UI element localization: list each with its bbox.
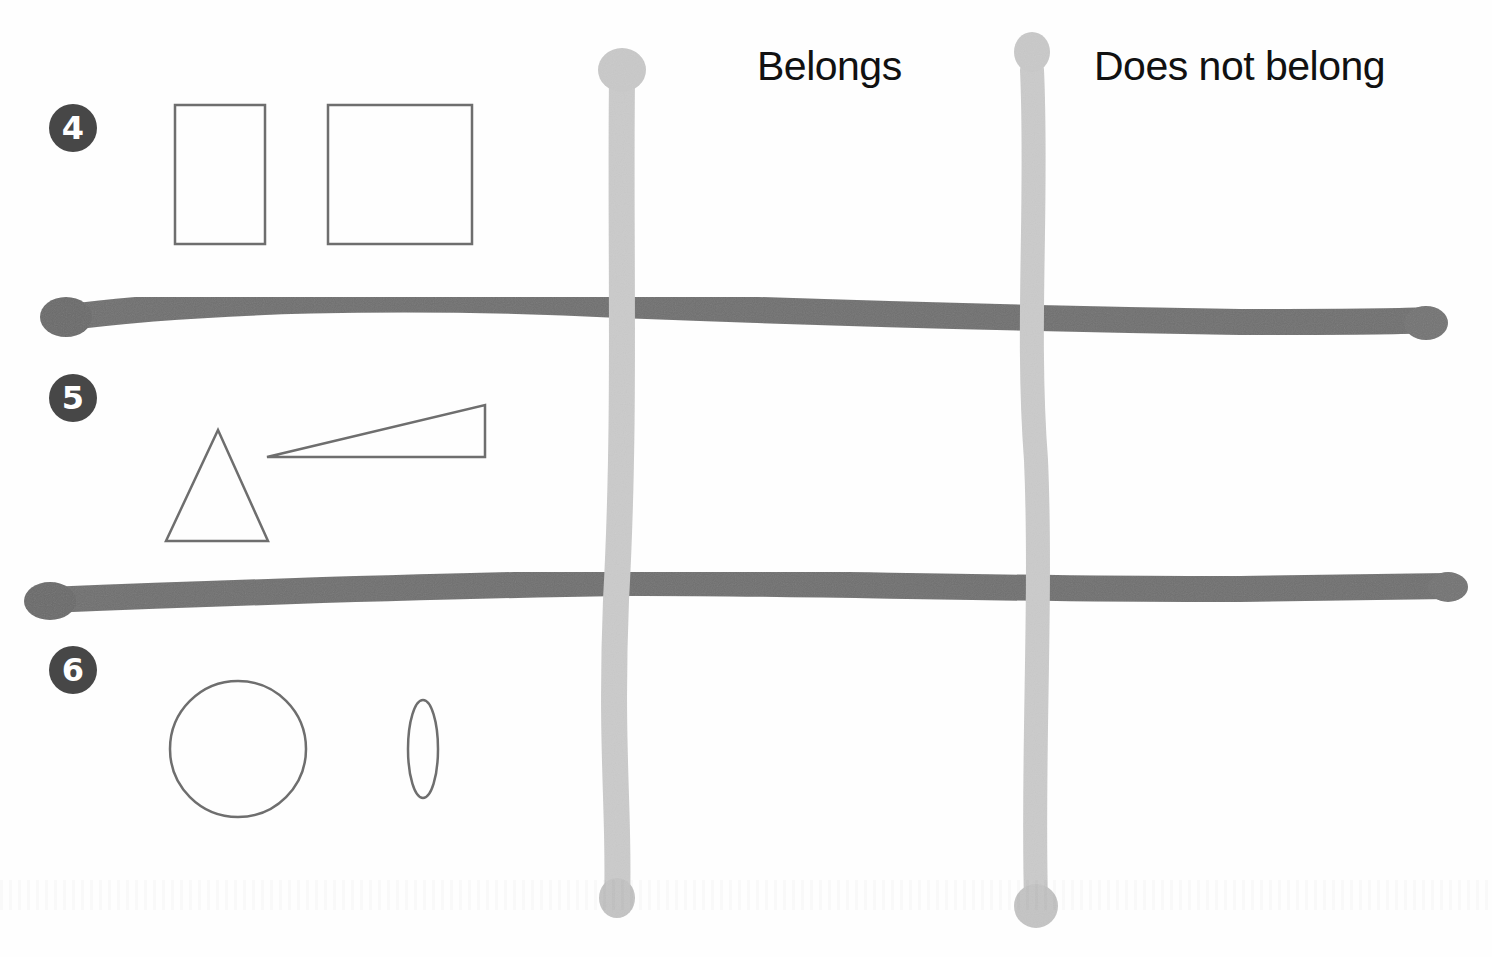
square-shape: [328, 105, 472, 244]
rectangle-shape: [175, 105, 265, 244]
triangle-shape: [166, 430, 268, 541]
worksheet-page: Belongs Does not belong 4 5 6: [0, 0, 1492, 957]
right-triangle-shape: [267, 405, 485, 457]
circle-shape: [170, 681, 306, 817]
shape-set: [0, 0, 1492, 957]
scan-bleed-through: [0, 880, 1492, 910]
ellipse-shape: [408, 700, 438, 798]
